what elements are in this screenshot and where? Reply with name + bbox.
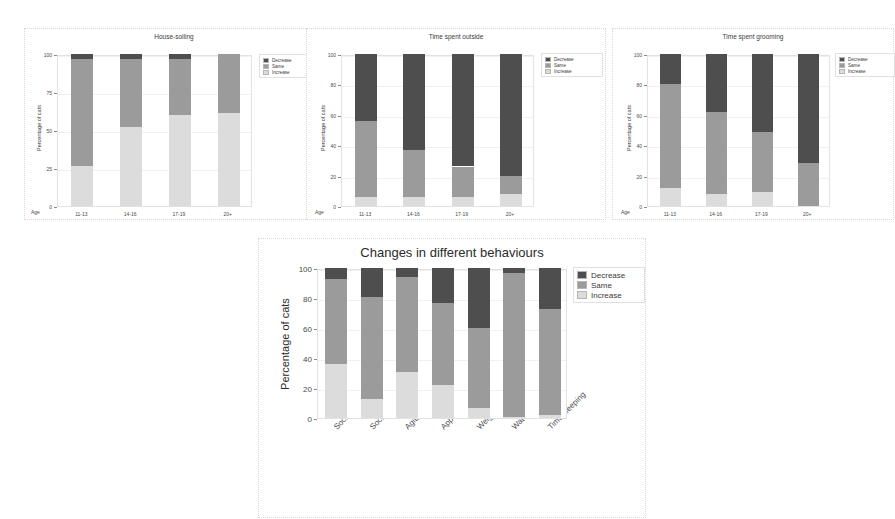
bar-segment-decrease xyxy=(660,54,681,84)
chart-legend: DecreaseSameIncrease xyxy=(573,267,645,303)
bar-segment-increase xyxy=(752,192,773,206)
bar-changes-in-different-behaviours-4 xyxy=(468,268,490,418)
legend-swatch-same xyxy=(577,281,587,289)
bar-segment-increase xyxy=(396,372,418,419)
bar-time-spent-outside-0 xyxy=(355,54,377,206)
bar-segment-same xyxy=(706,112,727,194)
bar-segment-same xyxy=(432,303,454,386)
xtick-label: 20+ xyxy=(203,211,252,217)
chart-panel-house-soiling: House-soiling025507510011-1314-1617-1920… xyxy=(24,28,324,220)
legend-label: Increase xyxy=(591,291,622,300)
chart-title: House-soiling xyxy=(25,33,323,40)
legend-label: Decrease xyxy=(848,57,868,62)
legend-swatch-increase xyxy=(263,70,269,75)
bar-house-soiling-1 xyxy=(120,54,142,206)
plot-area xyxy=(317,269,567,419)
xtick-label: 14-16 xyxy=(389,211,437,217)
legend-swatch-same xyxy=(839,63,845,68)
plot-area xyxy=(57,55,252,207)
xtick-label: 11-13 xyxy=(341,211,389,217)
bar-segment-increase xyxy=(452,197,474,206)
ytick-mark xyxy=(314,419,317,420)
x-axis-label: Age xyxy=(315,209,324,215)
ytick-mark xyxy=(54,207,57,208)
bar-segment-same xyxy=(539,309,561,416)
bar-segment-increase xyxy=(120,127,142,206)
bar-segment-increase xyxy=(403,197,425,206)
chart-panel-changes-in-different-behaviours: Changes in different behaviours020406080… xyxy=(258,238,646,518)
bar-segment-increase xyxy=(355,197,377,206)
bar-time-spent-outside-3 xyxy=(500,54,522,206)
bar-segment-decrease xyxy=(325,268,347,279)
x-axis-label: Age xyxy=(31,209,40,215)
bar-segment-increase xyxy=(218,113,240,206)
legend-label: Increase xyxy=(272,70,290,75)
legend-swatch-same xyxy=(545,63,551,68)
bar-segment-same xyxy=(325,279,347,365)
bar-segment-decrease xyxy=(355,54,377,121)
bar-segment-decrease xyxy=(452,54,474,166)
bar-house-soiling-0 xyxy=(71,54,93,206)
xtick-label: 20+ xyxy=(486,211,534,217)
bar-segment-same xyxy=(403,150,425,197)
chart-title: Changes in different behaviours xyxy=(259,245,645,260)
bar-segment-same xyxy=(798,163,819,206)
bar-time-spent-outside-1 xyxy=(403,54,425,206)
ytick-mark xyxy=(338,207,341,208)
legend-swatch-decrease xyxy=(263,58,269,63)
bar-changes-in-different-behaviours-5 xyxy=(503,268,525,418)
y-axis-label: Percentage of cats xyxy=(626,42,632,214)
bar-segment-decrease xyxy=(798,54,819,163)
legend-swatch-increase xyxy=(545,69,551,74)
bar-segment-increase xyxy=(503,417,525,419)
bar-segment-decrease xyxy=(468,268,490,328)
chart-title: Time spent grooming xyxy=(613,33,893,40)
bar-changes-in-different-behaviours-1 xyxy=(361,268,383,418)
xtick-label: 20+ xyxy=(784,211,830,217)
legend-label: Decrease xyxy=(272,58,292,63)
bar-segment-decrease xyxy=(361,268,383,297)
legend-swatch-increase xyxy=(577,291,587,299)
ytick-mark xyxy=(644,207,647,208)
bar-segment-decrease xyxy=(71,54,93,59)
legend-label: Increase xyxy=(848,69,866,74)
bar-changes-in-different-behaviours-2 xyxy=(396,268,418,418)
bar-segment-decrease xyxy=(432,268,454,303)
xtick-label: 14-16 xyxy=(106,211,155,217)
xtick-label: 14-16 xyxy=(693,211,739,217)
bar-segment-same xyxy=(503,273,525,417)
chart-title: Time spent outside xyxy=(307,33,605,40)
legend-swatch-decrease xyxy=(545,57,551,62)
legend-item-increase: Increase xyxy=(839,68,891,74)
bar-segment-same xyxy=(71,59,93,167)
bar-segment-decrease xyxy=(539,268,561,309)
legend-label: Same xyxy=(554,63,566,68)
bar-segment-same xyxy=(500,176,522,194)
legend-label: Same xyxy=(591,281,612,290)
bar-segment-decrease xyxy=(403,54,425,150)
bar-segment-increase xyxy=(361,399,383,419)
legend-swatch-decrease xyxy=(839,57,845,62)
legend-label: Same xyxy=(272,64,284,69)
bar-time-spent-outside-2 xyxy=(452,54,474,206)
x-axis-label: Age xyxy=(621,209,630,215)
legend-item-increase: Increase xyxy=(545,68,599,74)
bar-time-spent-grooming-1 xyxy=(706,54,727,206)
legend-item-increase: Increase xyxy=(577,290,641,300)
bar-segment-decrease xyxy=(500,54,522,176)
xtick-label: 11-13 xyxy=(57,211,106,217)
chart-panel-time-spent-outside: Time spent outside02040608010011-1314-16… xyxy=(306,28,606,220)
xtick-label: 11-13 xyxy=(647,211,693,217)
bar-segment-increase xyxy=(169,115,191,206)
legend-label: Decrease xyxy=(591,271,625,280)
bar-segment-same xyxy=(452,167,474,197)
bar-segment-same xyxy=(218,54,240,113)
bar-segment-increase xyxy=(539,415,561,418)
legend-label: Decrease xyxy=(554,57,574,62)
legend-swatch-same xyxy=(263,64,269,69)
bar-segment-decrease xyxy=(169,54,191,59)
bar-changes-in-different-behaviours-6 xyxy=(539,268,561,418)
bar-segment-same xyxy=(396,277,418,372)
bar-segment-decrease xyxy=(396,268,418,277)
bar-segment-decrease xyxy=(706,54,727,112)
